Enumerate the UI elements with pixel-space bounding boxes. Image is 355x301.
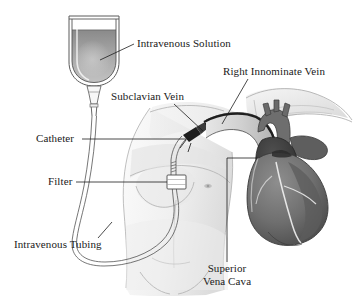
label-right-innominate-vein: Right Innominate Vein: [223, 65, 326, 77]
diagram-canvas: Intravenous Solution Right Innominate Ve…: [0, 0, 355, 301]
iv-solution-bag: [69, 16, 119, 86]
label-superior-vena-cava-line2: Vena Cava: [203, 275, 251, 287]
label-intravenous-tubing: Intravenous Tubing: [14, 238, 102, 250]
label-intravenous-solution: Intravenous Solution: [137, 37, 231, 49]
iv-therapy-diagram: Intravenous Solution Right Innominate Ve…: [0, 0, 355, 301]
label-superior-vena-cava-line1: Superior: [208, 262, 247, 274]
label-filter: Filter: [48, 175, 73, 187]
label-subclavian-vein: Subclavian Vein: [111, 90, 184, 102]
label-catheter: Catheter: [36, 132, 74, 144]
